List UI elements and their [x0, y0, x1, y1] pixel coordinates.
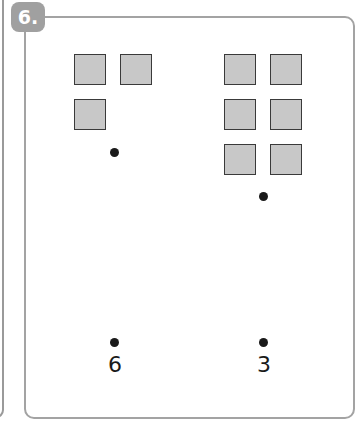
square-block: [224, 54, 256, 85]
number-label-left: 6: [100, 352, 130, 377]
connect-dot-top-right[interactable]: [259, 192, 268, 201]
connect-dot-top-left[interactable]: [110, 148, 119, 157]
square-block: [270, 99, 302, 130]
previous-exercise-panel: [0, 0, 4, 418]
square-block: [224, 99, 256, 130]
square-block: [120, 54, 152, 85]
square-block: [224, 144, 256, 175]
number-label-right: 3: [249, 352, 279, 377]
square-block: [270, 54, 302, 85]
square-block: [74, 99, 106, 130]
exercise-number-badge: 6.: [11, 2, 45, 32]
square-block: [270, 144, 302, 175]
connect-dot-bottom-left[interactable]: [110, 338, 119, 347]
connect-dot-bottom-right[interactable]: [259, 338, 268, 347]
square-block: [74, 54, 106, 85]
